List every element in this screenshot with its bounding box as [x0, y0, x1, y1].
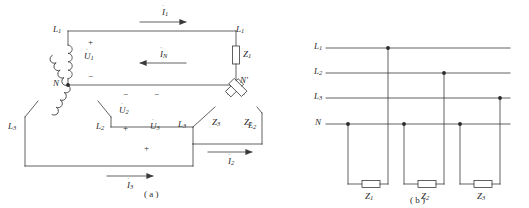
label-current-in: ˙IN	[160, 50, 167, 60]
caption-b: ( b )	[410, 196, 425, 205]
label-current-i1: ˙I1	[162, 8, 168, 18]
label-load-l3: L3	[178, 120, 186, 130]
label-impedance-z2: Z2	[244, 118, 252, 128]
node-dot-b-n3	[458, 122, 462, 126]
node-dot-b-n1	[346, 122, 350, 126]
label-impedance-z3: Z3	[212, 118, 220, 128]
node-dot-n	[66, 83, 70, 87]
source-winding-phase1	[68, 45, 72, 79]
polarity-plus-u1: +	[88, 38, 93, 47]
impedance-z1b-body	[362, 180, 380, 187]
diagram-a-group	[25, 22, 510, 188]
polarity-plus-u3: +	[144, 144, 149, 153]
label-b-bus-l1: L1	[314, 42, 322, 52]
label-current-i3: ˙I3	[127, 181, 133, 191]
wire-coil3-to-l3	[25, 101, 38, 117]
impedance-z1-body	[232, 46, 239, 64]
label-b-bus-l2: L2	[314, 67, 322, 77]
node-dot-b-l1	[386, 46, 390, 50]
node-dot-b-l3	[498, 96, 502, 100]
label-source-l3: L3	[8, 122, 16, 132]
label-voltage-u3: ˙U3	[150, 122, 160, 132]
polarity-plus-u2: +	[123, 124, 128, 133]
impedance-z3b-body	[474, 180, 492, 187]
polarity-minus-u2: −	[123, 90, 128, 99]
circuit-drawing	[0, 0, 529, 208]
source-winding-phase2	[52, 85, 71, 117]
diagram-b-group	[326, 46, 510, 188]
label-source-l2: L2	[96, 122, 104, 132]
wire-coil2-to-l2	[98, 101, 111, 117]
label-voltage-u1: ˙U1	[84, 52, 94, 62]
figure-root: L1 L1 N N' L3 L2 L3 L2 Z1 Z3 Z2 + ˙U1 − …	[0, 0, 529, 208]
node-dot-b-n2	[402, 122, 406, 126]
polarity-minus-u1: −	[88, 72, 93, 81]
label-current-i2: ˙I2	[228, 157, 234, 167]
label-load-nprime: N'	[240, 76, 248, 85]
source-winding-phase2-group	[52, 85, 71, 117]
label-b-bus-n: N	[315, 118, 321, 127]
label-b-bus-l3: L3	[314, 92, 322, 102]
label-b-impedance-z3: Z3	[477, 192, 485, 202]
wire-z2-to-l2term	[257, 107, 262, 113]
node-dot-b-l2	[442, 71, 446, 75]
polarity-minus-u3: −	[154, 90, 159, 99]
label-load-l1: L1	[236, 25, 244, 35]
label-b-impedance-z1: Z1	[365, 192, 373, 202]
label-impedance-z1: Z1	[243, 50, 251, 60]
caption-a: ( a )	[144, 190, 159, 199]
label-source-l1: L1	[53, 25, 61, 35]
label-voltage-u2: ˙U2	[119, 106, 129, 116]
impedance-z2b-body	[418, 180, 436, 187]
label-source-n: N	[53, 79, 59, 88]
